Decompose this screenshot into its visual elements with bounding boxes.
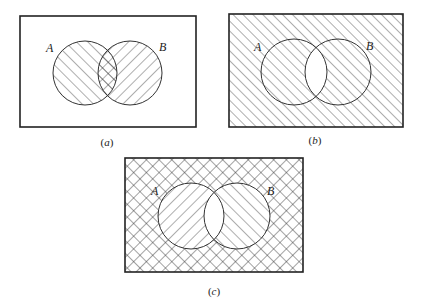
caption-a: (a): [101, 136, 114, 149]
caption-c: (c): [208, 285, 221, 298]
panel-a: A B (a): [20, 16, 196, 149]
panel-c: A B (c): [125, 158, 303, 298]
set-b-label: B: [267, 184, 275, 198]
venn-diagram-figure: A B (a) A B (b) A B (c): [0, 0, 424, 308]
set-a-label: A: [150, 184, 159, 198]
panel-b: A B (b): [229, 14, 403, 147]
set-b-label: B: [159, 40, 167, 54]
set-a-label: A: [253, 40, 262, 54]
set-b-label: B: [366, 39, 374, 53]
caption-b: (b): [309, 134, 322, 147]
set-a-label: A: [45, 41, 54, 55]
